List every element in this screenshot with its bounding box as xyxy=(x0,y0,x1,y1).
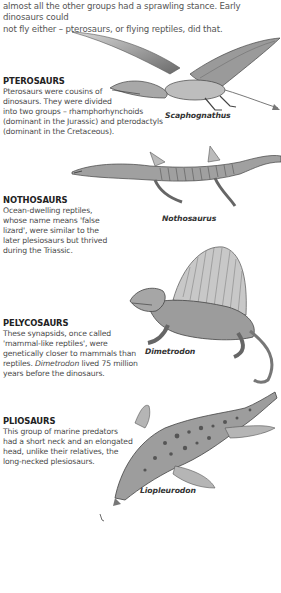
intro-line-1: almost all the other groups had a sprawl… xyxy=(3,1,281,24)
section-body: Ocean-dwelling reptiles, whose name mean… xyxy=(3,206,133,256)
section-heading: NOTHOSAURS xyxy=(3,195,133,206)
caption-dimetrodon: Dimetrodon xyxy=(145,347,195,356)
section-pliosaurs: PLIOSAURS This group of marine predators… xyxy=(3,416,143,467)
section-pterosaurs: PTEROSAURS Pterosaurs were cousins of di… xyxy=(3,76,163,137)
section-pelycosaurs: PELYCOSAURS These synapsids, once called… xyxy=(3,318,143,379)
section-heading: PTEROSAURS xyxy=(3,76,163,87)
section-heading: PLIOSAURS xyxy=(3,416,143,427)
caption-scaphognathus: Scaphognathus xyxy=(165,111,231,120)
section-body: These synapsids, once called 'mammal-lik… xyxy=(3,329,143,379)
caption-liopleurodon: Liopleurodon xyxy=(140,486,196,495)
section-body: This group of marine predators had a sho… xyxy=(3,427,143,467)
section-heading: PELYCOSAURS xyxy=(3,318,143,329)
stray-mark-icon xyxy=(99,514,105,522)
section-nothosaurs: NOTHOSAURS Ocean-dwelling reptiles, whos… xyxy=(3,195,133,256)
dimetrodon-illustration xyxy=(128,245,281,385)
caption-nothosaurus: Nothosaurus xyxy=(162,214,216,223)
section-body: Pterosaurs were cousins of dinosaurs. Th… xyxy=(3,87,163,137)
